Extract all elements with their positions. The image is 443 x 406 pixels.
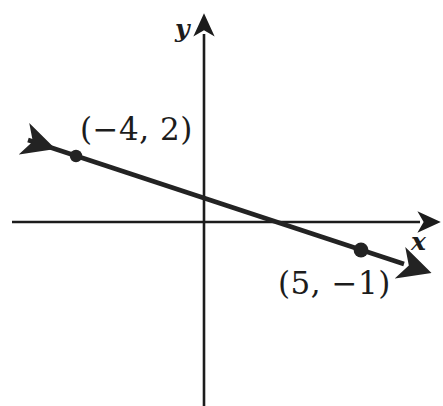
data-point-marker-a bbox=[70, 150, 82, 162]
x-axis-label: x bbox=[411, 229, 426, 254]
graph-figure: y x (−4, 2) (5, −1) bbox=[0, 0, 443, 406]
y-axis-label: y bbox=[175, 16, 190, 41]
data-point-marker-b bbox=[354, 243, 369, 258]
data-point-label-b: (5, −1) bbox=[278, 268, 391, 299]
data-point-label-a: (−4, 2) bbox=[80, 114, 193, 145]
coordinate-plane-svg bbox=[0, 0, 443, 406]
plotted-line bbox=[28, 140, 404, 264]
